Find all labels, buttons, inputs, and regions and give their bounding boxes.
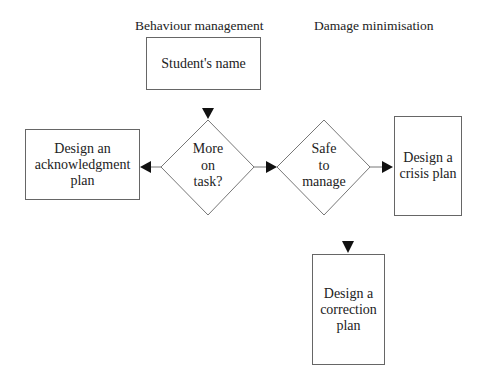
node-correction-plan: Design a correction plan [312,254,385,365]
node-acknowledgment-plan-label: Design an acknowledgment plan [35,141,131,189]
arrow-right-icon [382,161,393,173]
decision-safe-label: Safe to manage [292,141,356,191]
node-student-name: Student's name [146,37,261,90]
arrow-left-icon [140,161,151,173]
arrow-down-icon [342,241,354,253]
node-crisis-plan-label: Design a crisis plan [399,150,456,182]
arrow-right-icon [266,161,277,173]
node-crisis-plan: Design a crisis plan [394,116,462,216]
decision-on-task-label: More on task? [178,141,238,191]
node-student-name-label: Student's name [161,56,246,72]
node-correction-plan-label: Design a correction plan [320,286,377,334]
node-acknowledgment-plan: Design an acknowledgment plan [25,129,140,200]
arrow-down-icon [202,108,214,119]
